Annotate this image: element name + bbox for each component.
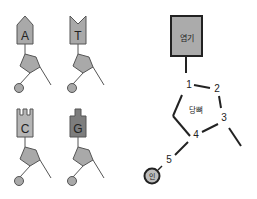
sugar-pentagon-icon: [73, 147, 93, 166]
phosphate-icon: [15, 84, 24, 93]
nucleotide-g: G: [68, 109, 105, 186]
base-label: 염기: [180, 34, 194, 43]
phosphate-icon: [15, 177, 24, 186]
carbon-5-label: 5: [166, 154, 172, 165]
base-label-a: A: [21, 29, 29, 43]
nucleotide-diagram: A T C G 염기 1: [0, 0, 257, 199]
sugar-pentagon-icon: [20, 147, 40, 166]
carbon-2-label: 2: [214, 83, 220, 94]
carbon-1-label: 1: [186, 79, 192, 90]
nucleotide-c: C: [15, 109, 52, 186]
phosphate-icon: [68, 84, 77, 93]
carbon-4-label: 4: [193, 129, 199, 140]
phosphate-icon: [68, 177, 77, 186]
base-label-t: T: [74, 29, 82, 43]
base-label-g: G: [73, 122, 82, 136]
base-label-c: C: [21, 122, 30, 136]
sugar-label: 당뼈: [189, 105, 203, 115]
sugar-pentagon-icon: [73, 54, 93, 73]
nucleotide-t: T: [68, 16, 105, 93]
phosphate-label: 인: [149, 172, 155, 180]
sugar-pentagon-icon: [20, 54, 40, 73]
nucleotide-a: A: [15, 16, 52, 93]
labeled-nucleotide-structure: 염기 1 2 3 4 5 당뼈 인: [145, 16, 242, 184]
carbon-3-label: 3: [221, 112, 227, 123]
